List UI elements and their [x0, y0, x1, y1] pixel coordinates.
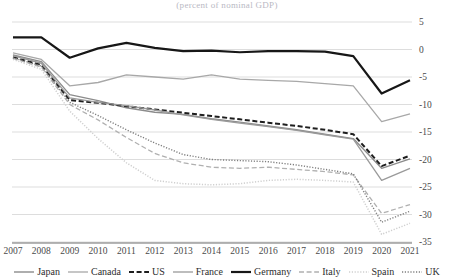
legend-item-france[interactable]: France	[173, 266, 223, 277]
legend-item-spain[interactable]: Spain	[349, 266, 395, 277]
legend-item-japan[interactable]: Japan	[14, 266, 60, 277]
legend-label: Canada	[91, 266, 121, 277]
legend-item-italy[interactable]: Italy	[299, 266, 340, 277]
y-tick-label: -5	[419, 72, 427, 82]
plot-area	[0, 0, 454, 280]
x-tick-label: 2019	[338, 246, 368, 257]
y-tick-label: -25	[419, 182, 432, 192]
x-tick-label: 2018	[310, 246, 340, 257]
legend-swatch-icon	[173, 267, 193, 276]
chart-legend: JapanCanadaUSFranceGermanyItalySpainUK	[0, 263, 454, 279]
legend-label: UK	[425, 266, 439, 277]
legend-swatch-icon	[349, 267, 369, 276]
legend-item-canada[interactable]: Canada	[68, 266, 121, 277]
series-line-italy	[13, 58, 410, 213]
legend-label: Italy	[322, 266, 340, 277]
x-tick-label: 2011	[111, 246, 141, 257]
legend-swatch-icon	[68, 267, 88, 276]
legend-item-uk[interactable]: UK	[402, 266, 439, 277]
series-line-canada	[13, 53, 410, 122]
legend-item-us[interactable]: US	[129, 266, 165, 277]
y-tick-label: -15	[419, 127, 432, 137]
line-chart: (percent of nominal GDP) 50-5-10-15-20-2…	[0, 0, 454, 280]
series-line-uk	[13, 58, 410, 222]
legend-label: Japan	[37, 266, 60, 277]
x-tick-label: 2014	[197, 246, 227, 257]
legend-item-germany[interactable]: Germany	[231, 266, 291, 277]
legend-label: US	[152, 266, 165, 277]
legend-label: Spain	[372, 266, 395, 277]
y-tick-label: -30	[419, 210, 432, 220]
x-tick-label: 2020	[367, 246, 397, 257]
x-tick-label: 2008	[26, 246, 56, 257]
x-tick-label: 2009	[55, 246, 85, 257]
legend-swatch-icon	[231, 267, 251, 276]
x-tick-label: 2013	[168, 246, 198, 257]
x-tick-label: 2017	[282, 246, 312, 257]
legend-swatch-icon	[129, 267, 149, 276]
legend-swatch-icon	[402, 267, 422, 276]
x-tick-label: 2012	[140, 246, 170, 257]
y-tick-label: 5	[419, 17, 424, 27]
legend-swatch-icon	[299, 267, 319, 276]
x-tick-label: 2021	[395, 246, 425, 257]
legend-label: France	[196, 266, 223, 277]
y-tick-label: -10	[419, 100, 432, 110]
y-tick-label: -20	[419, 155, 432, 165]
x-tick-label: 2007	[0, 246, 28, 257]
y-tick-label: 0	[419, 45, 424, 55]
series-line-japan	[13, 55, 410, 168]
series-line-us	[13, 57, 410, 166]
legend-swatch-icon	[14, 267, 34, 276]
x-tick-label: 2015	[225, 246, 255, 257]
x-tick-label: 2016	[253, 246, 283, 257]
legend-label: Germany	[254, 266, 291, 277]
x-tick-label: 2010	[83, 246, 113, 257]
